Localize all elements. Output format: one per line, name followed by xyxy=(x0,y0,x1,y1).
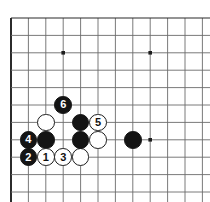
stone-white[interactable] xyxy=(72,148,90,166)
stone-layer: 642135 xyxy=(0,0,210,202)
stone-white-move-1[interactable]: 1 xyxy=(37,148,55,166)
stone-black-move-6[interactable]: 6 xyxy=(54,96,72,114)
stone-move-number: 1 xyxy=(43,152,49,163)
stone-move-number: 3 xyxy=(60,152,66,163)
stone-move-number: 5 xyxy=(95,117,101,128)
stone-black[interactable] xyxy=(124,131,142,149)
stone-move-number: 4 xyxy=(25,134,31,145)
stone-move-number: 6 xyxy=(60,99,66,110)
stone-white-move-5[interactable]: 5 xyxy=(89,114,107,132)
stone-black[interactable] xyxy=(72,114,90,132)
stone-black-move-2[interactable]: 2 xyxy=(20,148,38,166)
stone-white[interactable] xyxy=(37,114,55,132)
stone-black-move-4[interactable]: 4 xyxy=(20,131,38,149)
stone-white-move-3[interactable]: 3 xyxy=(54,148,72,166)
stone-black[interactable] xyxy=(37,131,55,149)
stone-black[interactable] xyxy=(72,131,90,149)
stone-white[interactable] xyxy=(89,131,107,149)
go-board-diagram: 642135 xyxy=(0,0,210,202)
stone-move-number: 2 xyxy=(25,152,31,163)
